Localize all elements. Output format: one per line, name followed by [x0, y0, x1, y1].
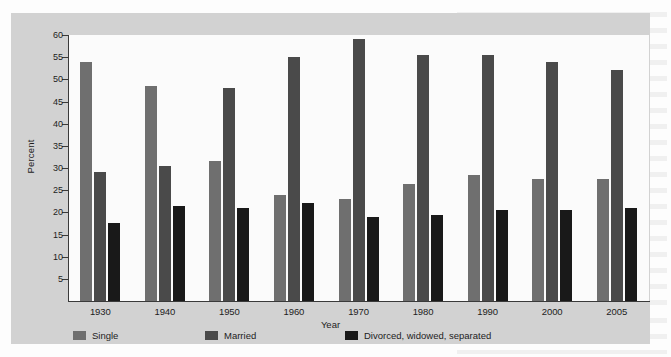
- x-axis-tick-label: 1980: [393, 306, 453, 317]
- bar: [532, 179, 544, 301]
- legend-item: Divorced, widowed, separated: [345, 329, 491, 341]
- y-axis-tick-label: 15: [33, 231, 63, 240]
- bar: [353, 39, 365, 301]
- bar: [237, 208, 249, 301]
- y-axis-tick-label: 25: [33, 186, 63, 195]
- bar: [159, 166, 171, 301]
- legend-label: Single: [92, 330, 118, 341]
- y-axis-tick-label: 55: [33, 53, 63, 62]
- bar: [108, 223, 120, 301]
- x-axis-tick-label: 2000: [522, 306, 582, 317]
- bar: [546, 62, 558, 301]
- y-axis-tick-label: 20: [33, 208, 63, 217]
- bar: [145, 86, 157, 301]
- x-axis-tick-label: 2005: [587, 306, 647, 317]
- legend-item: Married: [205, 329, 256, 341]
- bar: [209, 161, 221, 301]
- y-axis-tick-label: 5: [33, 275, 63, 284]
- bar: [417, 55, 429, 301]
- legend-item: Single: [73, 329, 118, 341]
- legend-label: Divorced, widowed, separated: [364, 330, 491, 341]
- chart-figure-panel: 51015202530354045505560 Percent 19301940…: [11, 13, 650, 344]
- bar: [496, 210, 508, 301]
- y-axis-line: [68, 35, 69, 302]
- x-axis-tick-label: 1950: [199, 306, 259, 317]
- x-axis-tick-label: 1990: [458, 306, 518, 317]
- bar: [173, 206, 185, 301]
- bar: [288, 57, 300, 301]
- x-axis-line: [68, 301, 650, 302]
- y-axis-tick-label: 30: [33, 164, 63, 173]
- legend-swatch: [205, 331, 218, 340]
- bar: [223, 88, 235, 301]
- bar: [302, 203, 314, 301]
- bar: [274, 195, 286, 301]
- scanned-page: 51015202530354045505560 Percent 19301940…: [0, 0, 671, 357]
- bar: [339, 199, 351, 301]
- legend-swatch: [73, 331, 86, 340]
- y-axis-title: Percent: [25, 122, 36, 192]
- y-axis-tick-label: 60: [33, 31, 63, 40]
- y-axis-tick-label: 40: [33, 120, 63, 129]
- bar: [560, 210, 572, 301]
- chart-legend: SingleMarriedDivorced, widowed, separate…: [55, 329, 645, 343]
- bar: [403, 184, 415, 301]
- bar: [80, 62, 92, 301]
- y-axis-tick-label: 45: [33, 98, 63, 107]
- y-axis-tick-label: 10: [33, 253, 63, 262]
- y-axis-tick-label: 50: [33, 75, 63, 84]
- legend-swatch: [345, 331, 358, 340]
- x-axis-tick-label: 1930: [70, 306, 130, 317]
- bar: [611, 70, 623, 301]
- x-axis-tick-label: 1960: [264, 306, 324, 317]
- bar: [482, 55, 494, 301]
- bar: [597, 179, 609, 301]
- x-axis-tick-label: 1970: [329, 306, 389, 317]
- x-axis-tick-label: 1940: [135, 306, 195, 317]
- bar: [468, 175, 480, 301]
- bar: [367, 217, 379, 301]
- bar: [625, 208, 637, 301]
- bar: [431, 215, 443, 301]
- legend-label: Married: [224, 330, 256, 341]
- bar: [94, 172, 106, 301]
- y-axis-tick-label: 35: [33, 142, 63, 151]
